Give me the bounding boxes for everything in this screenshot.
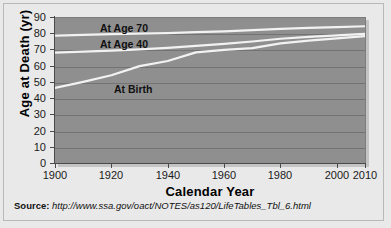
x-tick-mark	[111, 164, 112, 168]
x-tick-label: 1980	[257, 170, 303, 181]
x-axis-line	[54, 163, 366, 164]
y-tick-label: 30	[0, 109, 46, 120]
source-note: Source: http://www.ssa.gov/oact/NOTES/as…	[14, 200, 311, 211]
y-tick-label: 60	[0, 61, 46, 72]
x-tick-mark	[365, 164, 366, 168]
y-tick-label: 90	[0, 12, 46, 23]
y-tick-mark	[50, 114, 54, 115]
y-tick-mark	[50, 66, 54, 67]
chart-figure: Age at Death (yr) Calendar Year At Age 7…	[0, 0, 391, 228]
y-tick-mark	[50, 82, 54, 83]
x-tick-label: 2010	[342, 170, 388, 181]
y-tick-mark	[50, 147, 54, 148]
y-tick-label: 70	[0, 44, 46, 55]
x-tick-label: 1900	[32, 170, 78, 181]
series-label-at-birth: At Birth	[114, 83, 153, 95]
x-axis-title: Calendar Year	[55, 184, 365, 199]
y-tick-mark	[50, 163, 54, 164]
y-tick-label: 80	[0, 28, 46, 39]
x-tick-mark	[55, 164, 56, 168]
x-tick-label: 1920	[88, 170, 134, 181]
x-tick-mark	[224, 164, 225, 168]
y-tick-mark	[50, 131, 54, 132]
y-tick-label: 40	[0, 93, 46, 104]
series-label-at-age-70: At Age 70	[100, 22, 148, 34]
x-tick-mark	[280, 164, 281, 168]
y-tick-label: 10	[0, 142, 46, 153]
x-tick-mark	[168, 164, 169, 168]
y-tick-mark	[50, 17, 54, 18]
x-tick-label: 1940	[145, 170, 191, 181]
y-tick-mark	[50, 98, 54, 99]
y-tick-mark	[50, 49, 54, 50]
y-tick-label: 0	[0, 158, 46, 169]
y-axis-line	[54, 16, 55, 164]
source-prefix: Source:	[14, 200, 49, 211]
source-url: http://www.ssa.gov/oact/NOTES/as120/Life…	[52, 200, 311, 211]
y-tick-label: 20	[0, 126, 46, 137]
series-label-at-age-40: At Age 40	[100, 38, 148, 50]
x-tick-label: 1960	[201, 170, 247, 181]
y-tick-label: 50	[0, 77, 46, 88]
y-tick-mark	[50, 33, 54, 34]
x-tick-mark	[337, 164, 338, 168]
